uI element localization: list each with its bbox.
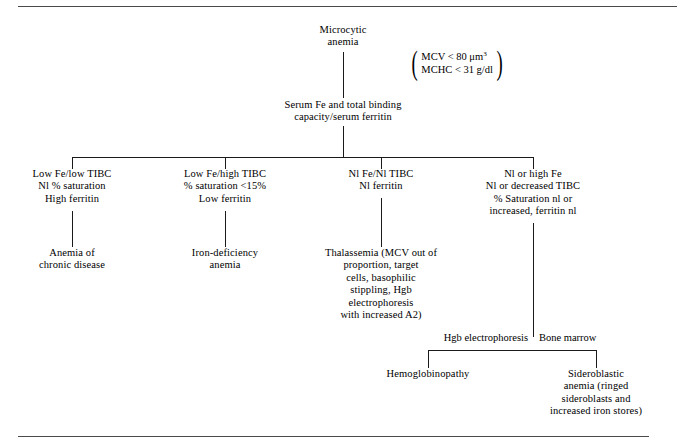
node-serum-fe-workup-line1: Serum Fe and total binding [253, 99, 433, 111]
node-branch2-line3: Low ferritin [157, 193, 293, 205]
node-branch3-line1: Nl Fe/Nl TIBC [320, 168, 442, 180]
edge-branch3-to-dx3 [381, 198, 382, 247]
criteria-bracket: ( MCV < 80 μm3 MCHC < 31 g/dl ) [409, 50, 505, 76]
criteria-line1: MCV < 80 μm3 [421, 50, 493, 63]
node-branch-low-fe-low-tibc: Low Fe/low TIBC Nl % saturation High fer… [7, 168, 137, 205]
node-branch-nl-fe-nl-tibc: Nl Fe/Nl TIBC Nl ferritin [320, 168, 442, 193]
node-microcytic-anemia-line2: anemia [283, 36, 403, 48]
node-dx1-line2: chronic disease [12, 259, 132, 271]
node-dx1-line1: Anemia of [12, 247, 132, 259]
node-branch4-line3: % Saturation nl or [456, 193, 610, 205]
node-dx-hemoglobinopathy: Hemoglobinopathy [368, 368, 488, 380]
edge-workup-stem [343, 126, 344, 157]
node-branch-low-fe-high-tibc: Low Fe/high TIBC % saturation <15% Low f… [157, 168, 293, 205]
node-microcytic-anemia-line1: Microcytic [283, 24, 403, 36]
bottom-divider-rule [18, 436, 649, 437]
label-hgb-electrophoresis: Hgb electrophoresis [431, 332, 528, 344]
node-dx4-line1: Hemoglobinopathy [368, 368, 488, 380]
node-serum-fe-workup-line2: capacity/serum ferritin [253, 111, 433, 123]
node-dx-thalassemia: Thalassemia (MCV out of proportion, targ… [311, 247, 451, 321]
node-branch4-line2: Nl or decreased TIBC [456, 180, 610, 192]
label-bone-marrow: Bone marrow [539, 332, 629, 344]
criteria-superscript: 3 [483, 50, 487, 58]
node-microcytic-anemia: Microcytic anemia [283, 24, 403, 49]
split-bar-two-tests [428, 350, 596, 351]
edge-test-to-dx5 [596, 350, 597, 368]
edge-branch1-to-dx1 [72, 211, 73, 247]
node-dx3-line6: with increased A2) [311, 309, 451, 321]
node-branch1-line1: Low Fe/low TIBC [7, 168, 137, 180]
node-dx3-line1: Thalassemia (MCV out of [311, 247, 451, 259]
node-dx2-line1: Iron-deficiency [165, 247, 285, 259]
top-divider-rule [18, 6, 677, 7]
node-branch2-line1: Low Fe/high TIBC [157, 168, 293, 180]
flowchart-page: Microcytic anemia ( MCV < 80 μm3 MCHC < … [0, 0, 685, 448]
node-dx3-line3: cells, basophilic [311, 272, 451, 284]
node-branch-nl-or-high-fe: Nl or high Fe Nl or decreased TIBC % Sat… [456, 168, 610, 218]
edge-test-to-dx4 [428, 350, 429, 368]
node-dx3-line5: electrophoresis [311, 297, 451, 309]
split-bar-four-branches [72, 157, 534, 158]
edge-branch2-to-dx2 [225, 211, 226, 247]
edge-branch4-to-tests [533, 223, 534, 337]
node-dx3-line4: stippling, Hgb [311, 284, 451, 296]
edge-root-to-workup [343, 52, 344, 98]
node-dx5-line2: anemia (ringed [528, 380, 664, 392]
criteria-line2: MCHC < 31 g/dl [421, 63, 493, 76]
node-dx5-line4: increased iron stores) [528, 405, 664, 417]
node-dx5-line1: Sideroblastic [528, 368, 664, 380]
node-dx2-line2: anemia [165, 259, 285, 271]
node-dx3-line2: proportion, target [311, 259, 451, 271]
node-dx5-line3: sideroblasts and [528, 393, 664, 405]
node-dx-sideroblastic-anemia: Sideroblastic anemia (ringed sideroblast… [528, 368, 664, 418]
node-dx-iron-deficiency-anemia: Iron-deficiency anemia [165, 247, 285, 272]
criteria-close-paren: ) [496, 50, 502, 76]
node-dx-anemia-chronic-disease: Anemia of chronic disease [12, 247, 132, 272]
node-branch1-line2: Nl % saturation [7, 180, 137, 192]
node-branch1-line3: High ferritin [7, 193, 137, 205]
criteria-text: MCV < 80 μm3 MCHC < 31 g/dl [420, 50, 494, 76]
node-branch3-line2: Nl ferritin [320, 180, 442, 192]
node-branch4-line4: increased, ferritin nl [456, 205, 610, 217]
criteria-open-paren: ( [412, 50, 418, 76]
node-branch2-line2: % saturation <15% [157, 180, 293, 192]
node-serum-fe-workup: Serum Fe and total binding capacity/seru… [253, 99, 433, 124]
node-branch4-line1: Nl or high Fe [456, 168, 610, 180]
